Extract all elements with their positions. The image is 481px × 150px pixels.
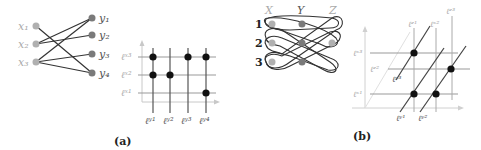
col-label-Z: Z xyxy=(328,4,337,17)
col-label-y1: ℓʸ¹ xyxy=(145,116,156,126)
node-x1 xyxy=(33,23,40,30)
d-label-2: ℓʸ¹ xyxy=(396,114,405,123)
col-label-X: X xyxy=(264,4,274,17)
col-label-y4: ℓʸ⁴ xyxy=(199,116,210,126)
label-y1: y₁ xyxy=(98,12,110,25)
row-label-3: 3 xyxy=(255,56,263,69)
caption-b: (b) xyxy=(353,130,371,143)
v-label-2: ℓˣ² xyxy=(430,20,439,29)
axis-vertical-arrow-icon xyxy=(363,26,368,32)
label-y3: y₃ xyxy=(98,48,110,61)
row-label-1: 1 xyxy=(255,18,263,31)
bipartite-graph: x₁ x₂ x₃ y₁ y₂ y₃ y₄ xyxy=(18,12,110,80)
node-y4 xyxy=(89,70,96,77)
row-label-x2: ℓˣ² xyxy=(121,70,132,80)
line-grid-3d: ℓˣ³ ℓᶻ² ℓˣ¹ ℓᶻ¹ ℓˣ² ℓᶻ³ ℓʸ³ ℓʸ¹ ℓʸ² xyxy=(352,7,470,123)
h-label-2: ℓᶻ² xyxy=(370,65,379,74)
label-x2: x₂ xyxy=(18,38,29,51)
node-y1 xyxy=(89,15,96,22)
v-label-1: ℓᶻ¹ xyxy=(408,20,417,29)
hypergraph: X Y Z 1 2 3 xyxy=(255,4,342,72)
label-y2: y₂ xyxy=(98,29,110,42)
d-label-1: ℓʸ³ xyxy=(392,75,401,84)
label-y4: y₄ xyxy=(98,67,110,80)
col-label-y2: ℓʸ² xyxy=(163,116,174,126)
left-nodes xyxy=(33,23,40,66)
col-label-Y: Y xyxy=(297,4,306,17)
line-grid-2d: ℓˣ³ ℓˣ² ℓˣ¹ ℓʸ¹ ℓʸ² ℓʸ³ ℓʸ⁴ xyxy=(121,40,220,126)
row-label-2: 2 xyxy=(255,37,263,50)
caption-a: (a) xyxy=(114,135,132,148)
node-y2 xyxy=(89,32,96,39)
node-y3 xyxy=(89,51,96,58)
node-x2 xyxy=(33,41,40,48)
x-axis-arrow-icon xyxy=(214,100,220,105)
right-nodes xyxy=(89,15,96,77)
y-axis-arrow-icon xyxy=(140,40,145,46)
label-x1: x₁ xyxy=(18,20,29,33)
label-x3: x₃ xyxy=(18,56,29,69)
h-label-3: ℓˣ¹ xyxy=(353,90,362,99)
figure: x₁ x₂ x₃ y₁ y₂ y₃ y₄ xyxy=(0,0,481,150)
node-x3 xyxy=(33,59,40,66)
d-label-3: ℓʸ² xyxy=(418,114,427,123)
row-label-x3: ℓˣ³ xyxy=(121,52,132,62)
v-label-3: ℓᶻ³ xyxy=(446,7,455,16)
row-label-x1: ℓˣ¹ xyxy=(121,88,132,98)
h-label-1: ℓˣ³ xyxy=(353,49,362,58)
axis-horizontal-arrow-icon xyxy=(458,106,464,111)
col-label-y3: ℓʸ³ xyxy=(181,116,192,126)
